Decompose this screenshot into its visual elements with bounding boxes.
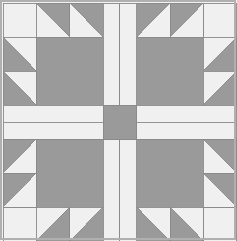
sash-vertical-bottom-left <box>103 139 120 241</box>
sash-vertical-top-right <box>120 3 137 105</box>
sash-vertical-bottom-right <box>120 139 137 241</box>
sash-vertical-top-left <box>103 3 120 105</box>
paw-square-bottom-right <box>137 139 204 207</box>
corner-square-bottom-left <box>3 207 36 241</box>
corner-square-top-left <box>3 3 36 37</box>
corner-square-top-right <box>203 3 236 37</box>
quilt-block-svg <box>0 0 237 241</box>
sash-horizontal-top-left <box>3 105 120 122</box>
paw-square-top-left <box>36 37 103 105</box>
sash-horizontal-bottom-left <box>3 122 120 139</box>
quilt-block-canvas <box>0 0 237 241</box>
sash-horizontal-bottom-right <box>120 122 237 139</box>
paw-square-top-right <box>137 37 204 105</box>
patch-layer <box>3 3 237 241</box>
corner-square-bottom-right <box>203 207 236 241</box>
paw-square-bottom-left <box>36 139 103 207</box>
sash-horizontal-top-right <box>120 105 237 122</box>
center-square <box>103 105 136 139</box>
